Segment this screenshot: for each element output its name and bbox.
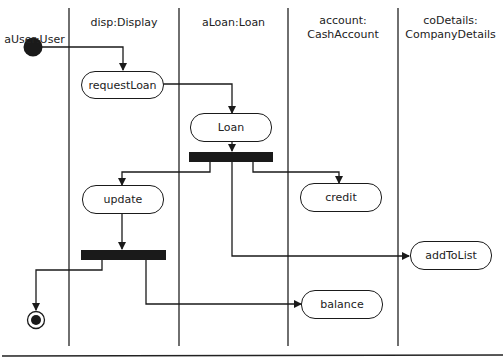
diagram-canvas — [0, 0, 503, 358]
lane-header-cashaccount-line2: CashAccount — [288, 28, 398, 42]
lane-header-companydetails-line1: coDetails: — [398, 14, 503, 28]
lane-header-companydetails: coDetails: CompanyDetails — [398, 14, 503, 42]
lane-header-user: aUser:User — [0, 33, 69, 47]
fork-bar-1 — [189, 152, 273, 162]
activity-balance[interactable]: balance — [301, 290, 383, 319]
bottom-rule — [2, 355, 503, 356]
lane-header-loan: aLoan:Loan — [179, 16, 288, 30]
activity-loan[interactable]: Loan — [190, 113, 272, 142]
final-node — [28, 312, 45, 329]
activity-add-to-list[interactable]: addToList — [410, 241, 492, 270]
lane-header-cashaccount-line1: account: — [288, 14, 398, 28]
activity-update[interactable]: update — [82, 185, 164, 214]
activity-credit[interactable]: credit — [300, 183, 382, 212]
join-bar-2 — [81, 250, 166, 260]
lane-header-cashaccount: account: CashAccount — [288, 14, 398, 42]
activity-request-loan[interactable]: requestLoan — [81, 71, 164, 99]
lane-header-display: disp:Display — [69, 16, 179, 30]
lane-header-companydetails-line2: CompanyDetails — [398, 28, 503, 42]
